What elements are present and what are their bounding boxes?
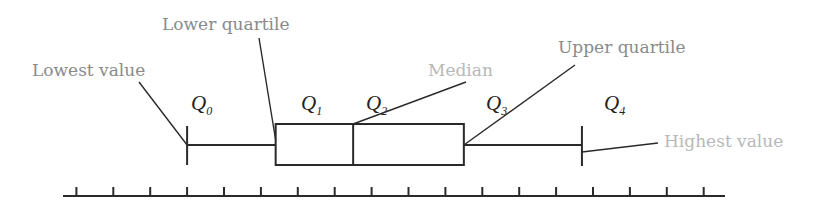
lowest-label: Lowest value (32, 60, 145, 80)
highest-leader-line (582, 143, 658, 152)
box-plot-diagram: Q0Q1Q2Q3Q4 Lowest valueLower quartileMed… (0, 0, 837, 206)
box-plot: Q0Q1Q2Q3Q4 (187, 91, 625, 166)
quartile-label-q2: Q2 (366, 91, 387, 118)
quartile-label-q3: Q3 (486, 91, 507, 118)
interquartile-box (276, 124, 464, 165)
quartile-label-q4: Q4 (604, 91, 625, 118)
upper-quartile-label: Upper quartile (558, 37, 686, 57)
median-label: Median (428, 60, 493, 80)
quartile-label-q0: Q0 (191, 91, 212, 118)
annotations: Lowest valueLower quartileMedianUpper qu… (32, 14, 783, 152)
lower-quartile-label: Lower quartile (162, 14, 290, 34)
quartile-label-q1: Q1 (301, 91, 322, 118)
highest-label: Highest value (664, 131, 783, 151)
lower-quartile-leader-line (259, 38, 276, 140)
lowest-leader-line (139, 82, 187, 145)
number-line (63, 187, 725, 196)
